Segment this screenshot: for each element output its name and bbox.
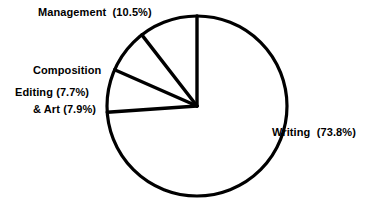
pie-chart-figure: Management (10.5%) Composition & Art (7.…: [0, 0, 386, 204]
slice-label-composition-line1: Composition: [33, 64, 101, 77]
slice-label-writing: Writing (73.8%): [272, 126, 356, 139]
slice-label-editing: Editing (7.7%): [15, 86, 89, 99]
slice-label-composition-line2: & Art (7.9%): [33, 103, 101, 116]
slice-label-management: Management (10.5%): [38, 6, 152, 19]
